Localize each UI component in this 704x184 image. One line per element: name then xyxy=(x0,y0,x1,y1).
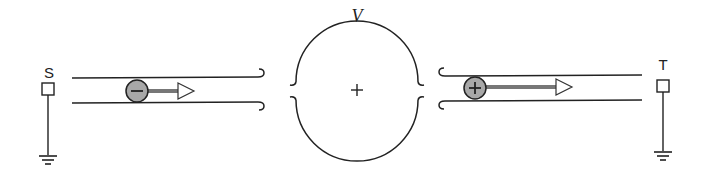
positive-particle xyxy=(464,77,572,99)
target-electrode-icon xyxy=(657,80,669,92)
potential-label: V xyxy=(352,6,365,26)
source-terminal: S xyxy=(39,64,57,164)
potential-chamber: V xyxy=(290,6,424,161)
diagram-canvas: S V xyxy=(0,0,704,184)
source-label: S xyxy=(44,64,54,81)
source-electrode-icon xyxy=(42,83,54,95)
arrow-right-icon xyxy=(178,83,194,99)
ground-icon xyxy=(39,156,57,164)
plus-icon xyxy=(351,84,363,96)
arrow-right-icon xyxy=(556,79,572,95)
negative-particle xyxy=(126,80,194,102)
target-label: T xyxy=(658,56,667,73)
ground-icon xyxy=(654,152,672,160)
target-terminal: T xyxy=(654,56,672,160)
